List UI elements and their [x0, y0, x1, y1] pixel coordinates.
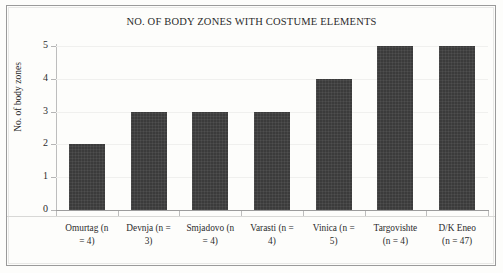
- bar[interactable]: [131, 112, 167, 210]
- x-tick-mark: [179, 211, 180, 216]
- x-tick-mark: [365, 211, 366, 216]
- bar[interactable]: [439, 46, 475, 210]
- x-category-label-line: D/K Eneo: [420, 222, 494, 235]
- gridline: [56, 79, 488, 80]
- x-tick-mark: [303, 211, 304, 216]
- bar[interactable]: [254, 112, 290, 210]
- x-tick-mark: [488, 211, 489, 216]
- y-tick-label: 4: [30, 72, 48, 83]
- bottom-rule: [7, 216, 495, 217]
- x-tick-mark: [118, 211, 119, 216]
- y-tick-label: 2: [30, 137, 48, 148]
- bar[interactable]: [69, 144, 105, 210]
- bar[interactable]: [377, 46, 413, 210]
- x-tick-mark: [56, 211, 57, 216]
- chart-figure: NO. OF BODY ZONES WITH COSTUME ELEMENTS …: [0, 0, 503, 273]
- x-tick-mark: [241, 211, 242, 216]
- y-tick-label: 1: [30, 170, 48, 181]
- gridline: [56, 46, 488, 47]
- bar[interactable]: [192, 112, 228, 210]
- x-axis-line: [56, 210, 489, 211]
- y-tick-label: 0: [30, 203, 48, 214]
- y-tick-label: 3: [30, 105, 48, 116]
- x-category-label-line: (n = 47): [420, 235, 494, 248]
- y-tick-label: 5: [30, 39, 48, 50]
- x-category-label: D/K Eneo(n = 47): [420, 222, 494, 247]
- chart-title: NO. OF BODY ZONES WITH COSTUME ELEMENTS: [0, 16, 503, 27]
- bar[interactable]: [316, 79, 352, 210]
- x-tick-mark: [426, 211, 427, 216]
- plot-area: [56, 46, 488, 210]
- y-axis-title: No. of body zones: [13, 37, 23, 157]
